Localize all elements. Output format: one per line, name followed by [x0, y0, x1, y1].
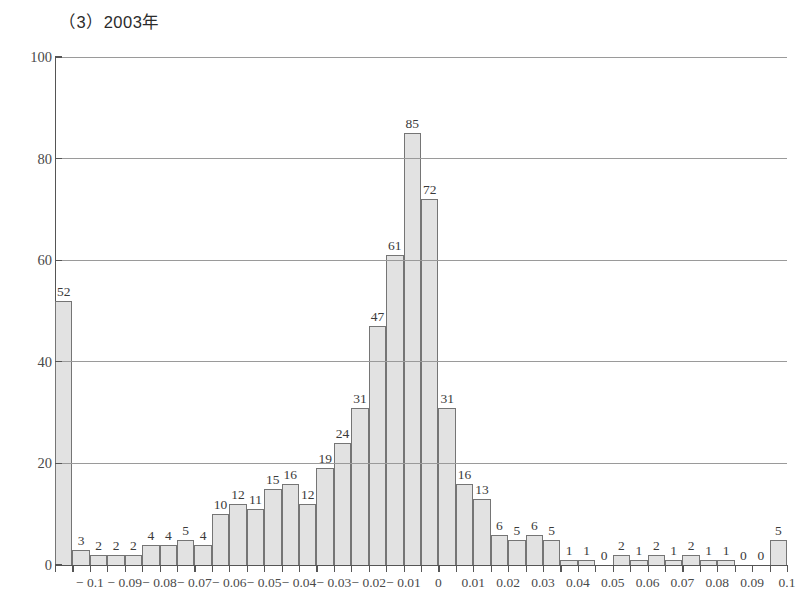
- y-tick-label: 60: [4, 253, 52, 268]
- x-tick-label: 0.08: [705, 576, 729, 590]
- bar-value-label: 1: [670, 544, 677, 558]
- x-tick-label: − 0.04: [282, 576, 317, 590]
- x-tick-mark: [125, 565, 126, 572]
- bar-value-label: 31: [353, 392, 367, 406]
- bar-value-label: 2: [618, 539, 625, 553]
- x-tick-mark: [229, 565, 230, 572]
- x-tick-mark: [648, 565, 649, 572]
- x-tick-label: − 0.05: [247, 576, 282, 590]
- bar-value-label: 1: [566, 544, 573, 558]
- x-tick-label: − 0.08: [142, 576, 177, 590]
- x-tick-mark: [438, 565, 439, 572]
- bar-value-label: 5: [548, 524, 555, 538]
- bar-value-label: 15: [266, 473, 280, 487]
- x-tick-mark: [456, 565, 457, 572]
- bar-value-label: 2: [95, 539, 102, 553]
- x-tick-mark: [107, 565, 108, 572]
- bar-value-label: 2: [130, 539, 137, 553]
- bar: [229, 504, 246, 565]
- y-tick-mark: [55, 564, 62, 565]
- x-tick-mark: [595, 565, 596, 572]
- x-tick-mark: [264, 565, 265, 572]
- y-tick-mark: [55, 56, 62, 57]
- x-tick-mark: [508, 565, 509, 572]
- x-tick-label: 0.07: [671, 576, 695, 590]
- bar: [526, 535, 543, 565]
- x-tick-mark: [386, 565, 387, 572]
- bar: [491, 535, 508, 565]
- bar: [316, 468, 333, 565]
- x-tick-mark: [491, 565, 492, 572]
- x-tick-mark: [177, 565, 178, 572]
- x-tick-label: 0.01: [461, 576, 485, 590]
- bar-value-label: 52: [57, 285, 71, 299]
- bar: [438, 408, 455, 565]
- bar: [386, 255, 403, 565]
- bar-value-label: 2: [113, 539, 120, 553]
- bar: [177, 540, 194, 565]
- bar-value-label: 5: [513, 524, 520, 538]
- bar-value-label: 1: [583, 544, 590, 558]
- bar: [247, 509, 264, 565]
- x-tick-mark: [578, 565, 579, 572]
- bar-value-label: 16: [458, 468, 472, 482]
- x-tick-mark: [682, 565, 683, 572]
- x-tick-mark: [160, 565, 161, 572]
- x-tick-mark: [90, 565, 91, 572]
- bar-value-label: 11: [249, 493, 262, 507]
- bar-value-label: 1: [723, 544, 730, 558]
- x-tick-mark: [247, 565, 248, 572]
- bar-value-label: 0: [601, 549, 608, 563]
- bar-value-label: 4: [147, 529, 154, 543]
- x-tick-label: 0.06: [636, 576, 660, 590]
- histogram-chart: （3）2003年 020406080100 − 0.1− 0.09− 0.08−…: [0, 0, 807, 609]
- bar: [282, 484, 299, 565]
- x-tick-label: − 0.07: [177, 576, 212, 590]
- x-tick-mark: [194, 565, 195, 572]
- y-tick-mark: [55, 158, 62, 159]
- bar-value-label: 19: [318, 452, 332, 466]
- x-tick-label: − 0.02: [351, 576, 386, 590]
- bar-value-label: 4: [165, 529, 172, 543]
- x-tick-mark: [404, 565, 405, 572]
- bar-value-label: 5: [182, 524, 189, 538]
- bar: [682, 555, 699, 565]
- bar-value-label: 0: [740, 549, 747, 563]
- x-tick-label: − 0.06: [212, 576, 247, 590]
- x-tick-mark: [665, 565, 666, 572]
- bar-value-label: 3: [78, 534, 85, 548]
- bar: [264, 489, 281, 565]
- x-tick-mark: [770, 565, 771, 572]
- x-tick-label: 0.03: [531, 576, 555, 590]
- x-tick-label: − 0.03: [317, 576, 352, 590]
- x-tick-label: − 0.01: [386, 576, 421, 590]
- x-tick-mark: [282, 565, 283, 572]
- y-tick-mark: [55, 260, 62, 261]
- gridline: [55, 361, 787, 362]
- x-tick-mark: [787, 565, 788, 572]
- x-tick-mark: [351, 565, 352, 572]
- y-tick-label: 40: [4, 355, 52, 370]
- gridline: [55, 158, 787, 159]
- y-tick-mark: [55, 361, 62, 362]
- bar: [125, 555, 142, 565]
- x-tick-mark: [526, 565, 527, 572]
- y-tick-mark: [55, 463, 62, 464]
- bar: [421, 199, 438, 565]
- y-tick-label: 20: [4, 456, 52, 471]
- bar-value-label: 0: [757, 549, 764, 563]
- x-tick-label: 0: [435, 576, 442, 590]
- bar-value-label: 24: [336, 427, 350, 441]
- bar-value-label: 61: [388, 239, 402, 253]
- x-tick-mark: [316, 565, 317, 572]
- bar: [107, 555, 124, 565]
- x-tick-label: 0.05: [601, 576, 625, 590]
- x-tick-label: − 0.1: [76, 576, 104, 590]
- bar: [456, 484, 473, 565]
- bar: [770, 540, 787, 565]
- y-tick-label: 80: [4, 152, 52, 167]
- bar: [55, 301, 72, 565]
- x-axis: − 0.1− 0.09− 0.08− 0.07− 0.06− 0.05− 0.0…: [0, 565, 807, 609]
- x-tick-mark: [613, 565, 614, 572]
- x-tick-mark: [72, 565, 73, 572]
